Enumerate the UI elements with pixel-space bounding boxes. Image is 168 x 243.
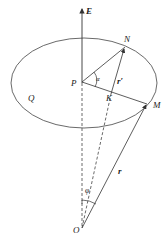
- label-e: E: [85, 6, 92, 16]
- line-pm: [82, 82, 147, 104]
- label-n: N: [123, 34, 131, 44]
- label-q: Q: [28, 93, 35, 103]
- label-m: M: [152, 100, 161, 110]
- label-r: r: [118, 166, 122, 176]
- label-k: K: [105, 93, 113, 103]
- cone-diagram: E N P α r′ K Q M r φ O: [0, 0, 168, 243]
- label-alpha: α: [96, 75, 100, 83]
- vector-r-prime: [111, 49, 124, 94]
- vector-r: [82, 105, 146, 228]
- dashed-on: [82, 94, 111, 228]
- label-phi: φ: [85, 186, 90, 195]
- label-r-prime: r′: [117, 76, 124, 86]
- angle-phi-arc: [82, 200, 96, 204]
- label-o: O: [73, 225, 80, 235]
- label-p: P: [70, 78, 77, 88]
